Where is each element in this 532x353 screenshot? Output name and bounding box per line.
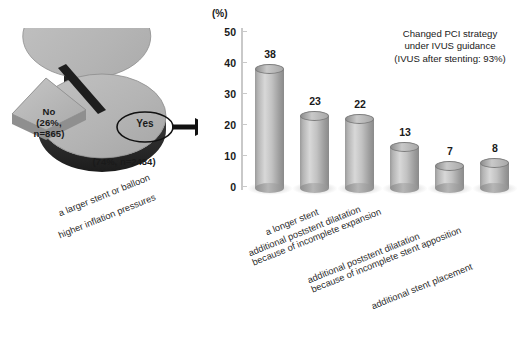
y-axis-line [241,28,243,190]
pie-label-no: No (26%, n=865) [18,106,80,139]
y-tick-0: 0 [214,181,236,193]
y-tick-40: 40 [214,57,236,69]
bar-1-value: 23 [295,95,335,107]
annotation-text: Changed PCI strategy under IVUS guidance… [374,28,526,65]
bar-0-value: 38 [250,48,290,60]
annotation-line-2: under IVUS guidance [374,40,526,52]
bar-2-value: 22 [340,98,380,110]
bar-5-top [480,158,509,168]
figure-canvas: No (26%, n=865) Yes (74%, n=2484) (%) 50… [0,0,532,353]
y-tick-20: 20 [214,119,236,131]
bar-2-body [345,119,374,188]
bar-3: 13 [390,147,419,188]
bar-2: 22 [345,119,374,188]
bar-2-base [345,183,374,193]
pie-label-yes: Yes [118,118,172,129]
bar-0: 38 [255,69,284,188]
bar-4-top [435,161,464,171]
bar-5: 8 [480,163,509,188]
bar-0-body [255,69,284,188]
y-axis-unit-label: (%) [212,8,228,19]
annotation-line-1: Changed PCI strategy [374,28,526,40]
tick-mark-10 [243,155,247,156]
pie-label-yes-sub: (74%, n=2484) [64,156,184,167]
bar-3-value: 13 [385,126,425,138]
bar-4-base [435,183,464,193]
pie-label-no-line2: n=865) [18,128,80,139]
pie-label-no-line1: (26%, [18,117,80,128]
pie-chart: No (26%, n=865) Yes (74%, n=2484) [2,28,198,178]
bar-0-top [255,64,284,74]
bar-chart: (%) 50 40 30 20 10 0 Changed PCI strateg… [198,0,532,353]
y-tick-30: 30 [214,88,236,100]
bar-5-base [480,183,509,193]
tick-mark-50 [243,31,247,32]
tick-mark-30 [243,93,247,94]
tick-mark-40 [243,62,247,63]
annotation-line-3: (IVUS after stenting: 93%) [374,53,526,65]
bar-1-top [300,111,329,121]
bar-5-value: 8 [475,142,515,154]
pie-label-no-title: No [18,106,80,117]
y-tick-50: 50 [214,26,236,38]
bar-4: 7 [435,166,464,188]
bar-3-body [390,147,419,188]
bar-0-base [255,183,284,193]
bar-1-body [300,116,329,188]
bar-2-top [345,114,374,124]
bar-1: 23 [300,116,329,188]
y-tick-10: 10 [214,150,236,162]
bar-3-top [390,142,419,152]
tick-mark-20 [243,124,247,125]
bar-4-value: 7 [430,145,470,157]
bar-3-base [390,183,419,193]
bar-1-base [300,183,329,193]
